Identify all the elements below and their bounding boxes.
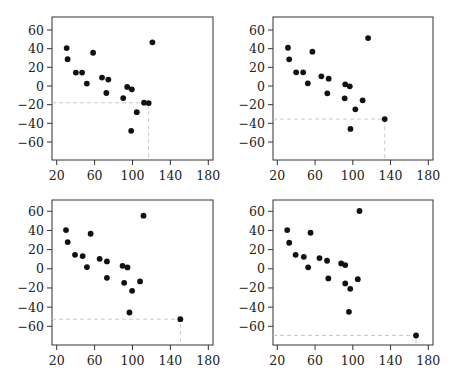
- y-tick-label: 20: [28, 242, 44, 257]
- x-tick-label: 20: [49, 168, 65, 183]
- data-point: [137, 279, 143, 285]
- data-point: [293, 69, 299, 75]
- data-point: [79, 70, 85, 76]
- plot-frame: [273, 17, 433, 160]
- data-point: [121, 280, 127, 286]
- y-tick-label: −60: [239, 135, 265, 150]
- data-point: [104, 259, 110, 265]
- y-tick-label: 0: [36, 261, 44, 276]
- data-point: [305, 264, 311, 270]
- panel-bottom-left: 6040200−20−40−602060100140180: [18, 200, 221, 368]
- data-point: [413, 333, 419, 339]
- y-tick-label: 20: [249, 60, 265, 75]
- outlier-guide-lines: [52, 319, 180, 345]
- data-point: [90, 50, 96, 56]
- data-point: [128, 128, 134, 134]
- y-tick-label: 40: [28, 41, 44, 56]
- data-point: [347, 83, 353, 89]
- data-point: [346, 309, 352, 315]
- y-tick-label: 40: [28, 223, 44, 238]
- data-point: [72, 252, 78, 258]
- data-point: [63, 227, 69, 233]
- plot-frame: [273, 200, 433, 345]
- chart-canvas: 6040200−20−40−602060100140180 6040200−20…: [0, 0, 449, 380]
- y-tick-label: −60: [18, 319, 44, 334]
- data-point: [84, 81, 90, 87]
- data-point: [97, 256, 103, 262]
- data-point: [360, 97, 366, 103]
- data-point: [325, 275, 331, 281]
- data-point: [382, 116, 388, 122]
- data-point: [310, 49, 316, 55]
- data-point: [64, 45, 70, 51]
- data-point: [318, 73, 324, 79]
- x-tick-label: 180: [196, 353, 220, 368]
- y-tick-label: −20: [18, 97, 44, 112]
- x-tick-label: 60: [87, 168, 103, 183]
- data-point: [285, 45, 291, 51]
- data-point: [286, 240, 292, 246]
- data-point: [324, 258, 330, 264]
- data-point: [342, 95, 348, 101]
- y-tick-label: 60: [28, 23, 44, 38]
- x-tick-label: 100: [341, 168, 365, 183]
- x-tick-label: 140: [158, 168, 182, 183]
- data-point: [365, 35, 371, 41]
- data-point: [348, 126, 354, 132]
- data-point: [324, 90, 330, 96]
- y-tick-label: −40: [18, 116, 44, 131]
- y-tick-label: −20: [18, 280, 44, 295]
- data-point: [80, 253, 86, 259]
- panel-bottom-right: 6040200−20−40−602060100140180: [239, 200, 441, 368]
- y-tick-label: −60: [239, 319, 265, 334]
- data-point: [305, 80, 311, 86]
- y-tick-label: −60: [18, 135, 44, 150]
- outlier-guide-lines: [273, 119, 385, 160]
- y-tick-label: 0: [257, 79, 265, 94]
- data-point: [342, 281, 348, 287]
- x-tick-label: 100: [341, 353, 365, 368]
- x-tick-label: 60: [307, 353, 323, 368]
- panel-top-right: 6040200−20−40−602060100140180: [239, 17, 441, 183]
- x-tick-label: 180: [416, 353, 440, 368]
- data-point: [342, 262, 348, 268]
- x-tick-label: 20: [49, 353, 65, 368]
- data-point: [284, 227, 290, 233]
- data-point: [347, 286, 353, 292]
- x-tick-label: 20: [269, 353, 285, 368]
- data-point: [104, 275, 110, 281]
- outlier-guide-lines: [273, 336, 416, 346]
- y-tick-label: −20: [239, 280, 265, 295]
- data-point: [300, 69, 306, 75]
- y-tick-label: 40: [249, 41, 265, 56]
- data-point: [177, 316, 183, 322]
- data-point: [308, 230, 314, 236]
- y-tick-label: 0: [36, 79, 44, 94]
- data-point: [103, 90, 109, 96]
- data-point: [134, 109, 140, 115]
- data-point: [105, 77, 111, 83]
- y-tick-label: 60: [28, 204, 44, 219]
- data-point: [84, 264, 90, 270]
- data-point: [301, 254, 307, 260]
- y-tick-label: 40: [249, 223, 265, 238]
- data-point: [352, 106, 358, 112]
- data-point: [326, 76, 332, 82]
- x-tick-label: 100: [121, 168, 145, 183]
- plot-frame: [52, 200, 213, 345]
- data-point: [125, 265, 131, 271]
- data-point: [65, 56, 71, 62]
- y-tick-label: 20: [28, 60, 44, 75]
- x-tick-label: 60: [87, 353, 103, 368]
- data-point: [65, 239, 71, 245]
- x-tick-label: 140: [158, 353, 182, 368]
- x-tick-label: 20: [269, 168, 285, 183]
- data-point: [286, 56, 292, 62]
- data-point: [120, 95, 126, 101]
- scatter-figure-grid: 6040200−20−40−602060100140180 6040200−20…: [0, 0, 449, 380]
- y-tick-label: 0: [257, 261, 265, 276]
- y-tick-label: −40: [239, 116, 265, 131]
- data-point: [355, 276, 361, 282]
- y-tick-label: −40: [18, 300, 44, 315]
- data-point: [293, 252, 299, 258]
